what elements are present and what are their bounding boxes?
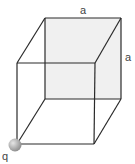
edge-bottom-right-depth [94, 99, 121, 144]
back-face [45, 18, 121, 99]
charge-label: q [2, 150, 8, 162]
edge-label-top: a [80, 4, 87, 16]
edge-label-side: a [125, 51, 132, 63]
point-charge-icon [9, 139, 22, 152]
edge-bottom-left-depth [17, 99, 45, 144]
cube-diagram: a a q [0, 0, 135, 164]
edge-top-left-depth [17, 18, 45, 63]
